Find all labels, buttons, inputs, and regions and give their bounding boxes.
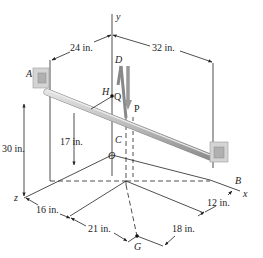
z-axis-label: z — [13, 192, 18, 203]
point-o-label: O — [108, 150, 115, 161]
svg-text:y: y — [115, 11, 121, 22]
dim-18: 18 in. — [165, 212, 204, 245]
svg-text:D: D — [114, 54, 123, 65]
svg-text:H: H — [101, 86, 110, 97]
svg-text:Q: Q — [114, 91, 122, 102]
svg-text:18 in.: 18 in. — [172, 223, 195, 234]
svg-text:x: x — [242, 188, 248, 199]
svg-text:21 in.: 21 in. — [88, 223, 111, 234]
rod-diagram: y 24 in. 32 in. — [0, 0, 263, 258]
svg-text:16 in.: 16 in. — [36, 204, 59, 215]
point-h: H Q — [91, 86, 122, 109]
bracket-b: B — [210, 142, 241, 186]
dim-16: 16 in. — [26, 198, 70, 218]
dim-12: 12 in. — [205, 191, 232, 212]
svg-text:P: P — [134, 103, 140, 114]
dim-24: 24 in. — [52, 35, 111, 60]
svg-text:B: B — [235, 175, 241, 186]
svg-text:12 in.: 12 in. — [207, 197, 230, 208]
svg-text:32 in.: 32 in. — [152, 42, 175, 53]
cable-d: D — [114, 54, 126, 118]
svg-text:G: G — [134, 241, 141, 252]
svg-text:24 in.: 24 in. — [70, 42, 93, 53]
point-c-label: C — [115, 134, 122, 145]
dim-32: 32 in. — [113, 35, 212, 62]
dim-30: 30 in. — [2, 143, 25, 154]
dim-17: 17 in. — [60, 136, 83, 147]
svg-text:A: A — [25, 68, 33, 79]
dim-21: 21 in. — [71, 218, 127, 241]
bracket-a: A — [25, 68, 49, 88]
